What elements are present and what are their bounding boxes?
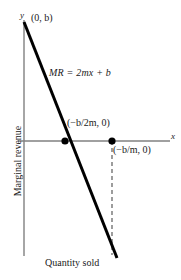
x-axis-title: Quantity sold bbox=[45, 258, 99, 268]
equation-label: MR = 2mx + b bbox=[49, 68, 111, 78]
point-label-y-intercept: (0, b) bbox=[31, 13, 53, 23]
marginal-revenue-graph: y x (0, b) MR = 2mx + b (−b/2m, 0) (−b/m… bbox=[0, 0, 181, 280]
point-label-demand-zero: (−b/m, 0) bbox=[113, 145, 151, 155]
graph-canvas bbox=[0, 0, 181, 280]
y-axis-letter: y bbox=[20, 11, 24, 20]
x-axis-letter: x bbox=[171, 132, 175, 141]
point-label-mr-zero: (−b/2m, 0) bbox=[67, 118, 110, 128]
marginal-revenue-line bbox=[24, 22, 117, 258]
y-axis-title: Marginal revenue bbox=[13, 115, 23, 207]
mr-zero-dot bbox=[61, 137, 68, 144]
